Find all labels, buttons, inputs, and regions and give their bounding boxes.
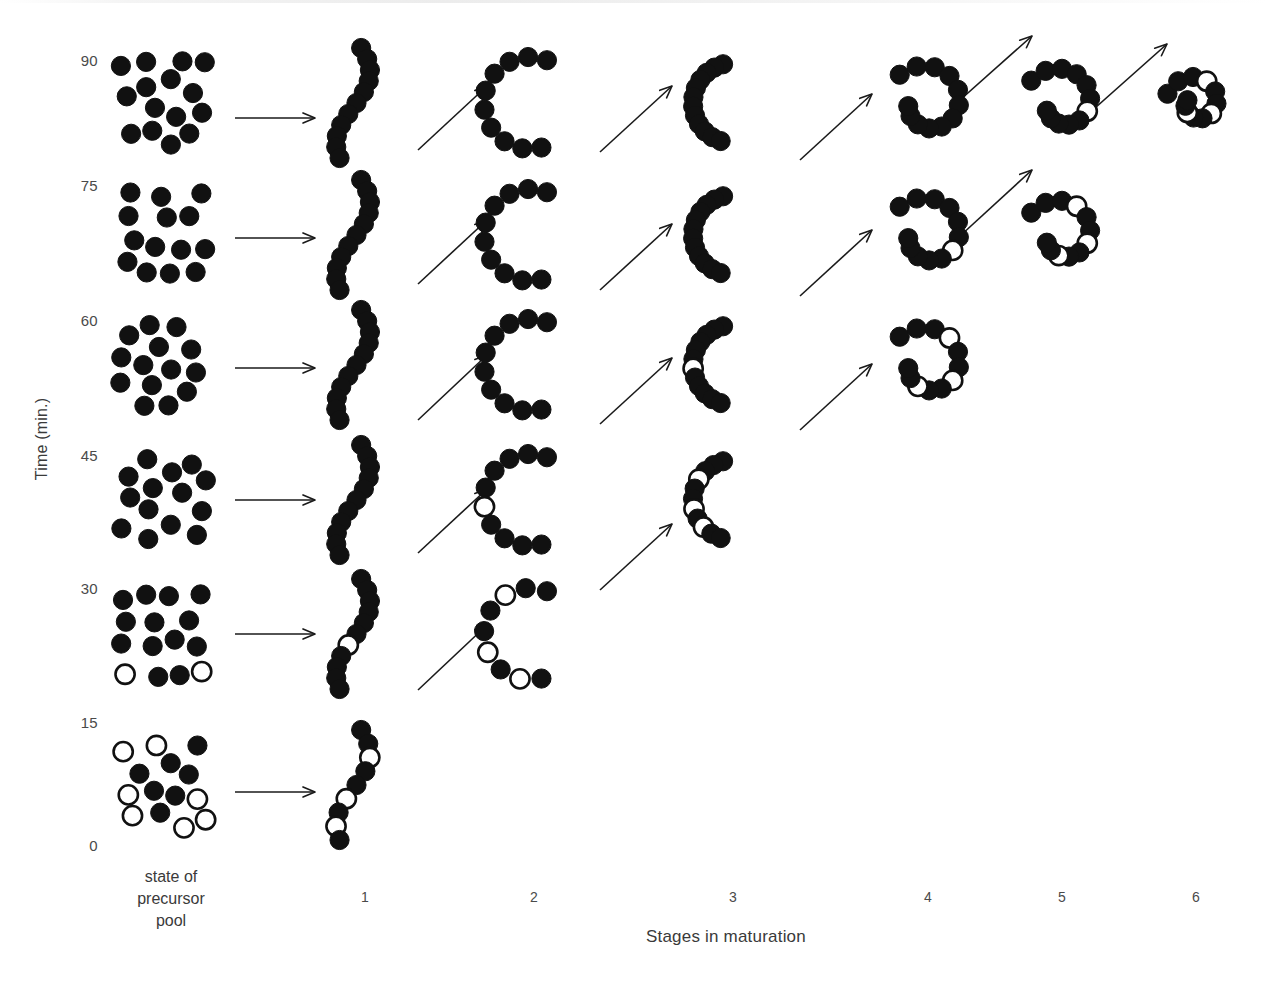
glyph-stage1-t45 [327, 435, 380, 564]
pool-filled-bead [119, 467, 138, 486]
arrow-shaft [600, 524, 672, 590]
pool-filled-bead [180, 207, 199, 226]
pool-filled-bead [112, 348, 131, 367]
arrow-pool-to-stage1-t45 [235, 495, 315, 505]
pool-filled-bead [144, 781, 163, 800]
pool-filled-bead [192, 502, 211, 521]
chain-filled-bead [513, 401, 532, 420]
pool-open-bead [115, 665, 134, 684]
glyph-stage1-t15 [326, 720, 379, 849]
pool-filled-bead [152, 187, 171, 206]
glyph-stage1-t30 [327, 569, 380, 698]
pool-filled-bead [179, 765, 198, 784]
chain-filled-bead [495, 132, 514, 151]
chain-filled-bead [330, 410, 349, 429]
pool-filled-bead [183, 83, 202, 102]
pool-filled-bead [146, 237, 165, 256]
chain-filled-bead [330, 545, 349, 564]
arrow-shaft [800, 94, 872, 160]
chain-filled-bead [907, 57, 926, 76]
pool-filled-bead [151, 803, 170, 822]
arrow-stage-2-3-t75 [600, 86, 672, 152]
chain-filled-bead [537, 582, 556, 601]
pool-filled-bead [162, 360, 181, 379]
chain-filled-bead [476, 213, 495, 232]
pool-filled-bead [143, 636, 162, 655]
precursor-pool-t45 [112, 450, 216, 549]
glyph-stage3-t60 [684, 317, 733, 413]
pool-filled-bead [121, 183, 140, 202]
pool-filled-bead [182, 340, 201, 359]
pool-filled-bead [180, 124, 199, 143]
pool-filled-bead [143, 121, 162, 140]
chain-filled-bead [518, 444, 537, 463]
glyph-stage3-t90 [684, 55, 733, 151]
pool-filled-bead [161, 754, 180, 773]
chain-filled-bead [330, 830, 349, 849]
pool-filled-bead [166, 786, 185, 805]
chain-filled-bead [537, 51, 556, 70]
pool-open-bead [119, 785, 138, 804]
chain-open-bead [475, 497, 494, 516]
arrow-pool-to-stage1-t75 [235, 233, 315, 243]
pool-filled-bead [139, 529, 158, 548]
glyph-stage5-t90 [1022, 59, 1100, 134]
arrow-pool-to-stage1-t90 [235, 113, 315, 123]
pool-filled-bead [186, 262, 205, 281]
pool-open-bead [188, 789, 207, 808]
glyph-stage3-t75 [684, 187, 733, 283]
pool-filled-bead [173, 52, 192, 71]
chain-filled-bead [532, 270, 551, 289]
arrow-stage-1-2-t30 [418, 489, 487, 553]
glyph-stage2-t30 [474, 579, 556, 689]
glyph-stage4-t60 [890, 319, 968, 400]
pool-filled-bead [130, 764, 149, 783]
pool-open-bead [196, 810, 215, 829]
chain-filled-bead [475, 100, 494, 119]
pool-filled-bead [171, 240, 190, 259]
pool-filled-bead [140, 316, 159, 335]
pool-filled-bead [192, 184, 211, 203]
precursor-pool-t30 [112, 585, 212, 687]
chain-filled-bead [532, 669, 551, 688]
glyph-stage1-t75 [327, 170, 380, 299]
pool-filled-bead [162, 463, 181, 482]
arrow-shaft [960, 36, 1032, 100]
glyph-stage2-t45 [475, 444, 557, 555]
glyph-stage3-t45 [683, 452, 732, 548]
pool-filled-bead [160, 264, 179, 283]
pool-filled-bead [113, 590, 132, 609]
arrow-stage-2-3-t60 [600, 224, 672, 290]
chain-filled-bead [899, 359, 918, 378]
pool-filled-bead [191, 585, 210, 604]
arrow-shaft [960, 170, 1032, 236]
chain-filled-bead [890, 327, 909, 346]
pool-filled-bead [134, 355, 153, 374]
chain-filled-bead [907, 319, 926, 338]
chain-filled-bead [711, 393, 730, 412]
pool-open-bead [147, 736, 166, 755]
chain-filled-bead [1037, 233, 1056, 252]
chain-filled-bead [513, 271, 532, 290]
precursor-pool-t15 [114, 736, 216, 838]
chain-filled-bead [330, 280, 349, 299]
pool-open-bead [192, 662, 211, 681]
arrow-stage-4-5-t75 [960, 170, 1032, 236]
pool-filled-bead [139, 500, 158, 519]
pool-filled-bead [170, 666, 189, 685]
chain-filled-bead [476, 478, 495, 497]
glyph-stage2-t90 [475, 47, 557, 158]
pool-filled-bead [137, 78, 156, 97]
arrow-shaft [418, 355, 487, 420]
pool-open-bead [123, 806, 142, 825]
pool-filled-bead [122, 124, 141, 143]
arrow-shaft [600, 358, 672, 424]
pool-filled-bead [161, 515, 180, 534]
chain-filled-bead [537, 313, 556, 332]
pool-filled-bead [145, 613, 164, 632]
chain-filled-bead [1037, 101, 1056, 120]
glyph-stage2-t60 [475, 309, 557, 420]
pool-filled-bead [111, 373, 130, 392]
chain-filled-bead [491, 660, 510, 679]
pool-filled-bead [192, 103, 211, 122]
